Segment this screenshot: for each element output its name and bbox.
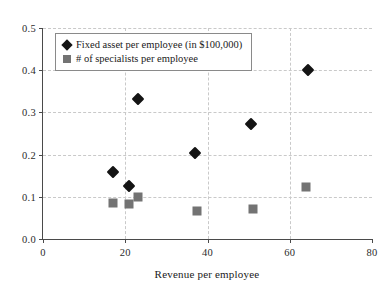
legend-label-specialists: # of specialists per employee [76, 52, 198, 66]
legend-item-specialists: # of specialists per employee [63, 52, 242, 66]
x-axis-tick-label: 40 [202, 247, 213, 258]
gridline-vertical [290, 28, 291, 239]
y-axis-tick-label: 0.1 [22, 191, 36, 202]
y-axis-tick-label: 0.4 [22, 65, 36, 76]
y-axis-tick-label: 0.3 [22, 107, 36, 118]
x-axis-tick [208, 239, 209, 243]
x-axis-tick [43, 239, 44, 243]
x-axis-tick-label: 60 [284, 247, 295, 258]
legend-label-fixed-asset: Fixed asset per employee (in $100,000) [76, 38, 242, 52]
x-axis-tick-label: 20 [120, 247, 131, 258]
data-point-fixed-asset [131, 93, 144, 106]
x-axis-tick [290, 239, 291, 243]
data-point-specialists [248, 205, 257, 214]
data-point-fixed-asset [302, 64, 315, 77]
data-point-fixed-asset [189, 147, 202, 160]
x-axis-tick [125, 239, 126, 243]
x-axis-tick-label: 80 [366, 247, 377, 258]
chart-top-margin [0, 0, 391, 10]
diamond-marker-icon [61, 39, 72, 50]
data-point-specialists [108, 198, 117, 207]
y-axis-tick [39, 155, 43, 156]
data-point-fixed-asset [107, 166, 120, 179]
data-point-specialists [302, 182, 311, 191]
y-axis-tick-label: 0.5 [22, 23, 36, 34]
data-point-specialists [193, 207, 202, 216]
x-axis-title: Revenue per employee [42, 268, 372, 280]
square-marker-icon [63, 55, 71, 63]
y-axis-tick-label: 0.0 [22, 234, 36, 245]
y-axis-tick [39, 197, 43, 198]
y-axis-tick-label: 0.2 [22, 149, 36, 160]
y-axis-tick [39, 70, 43, 71]
data-point-specialists [133, 193, 142, 202]
y-axis-tick [39, 28, 43, 29]
chart-legend: Fixed asset per employee (in $100,000) #… [55, 33, 252, 71]
y-axis-tick [39, 112, 43, 113]
legend-item-fixed-asset: Fixed asset per employee (in $100,000) [63, 38, 242, 52]
scatter-chart: 0.00.10.20.30.40.5020406080 Fixed asset … [0, 0, 391, 294]
x-axis-tick-label: 0 [40, 247, 46, 258]
data-point-fixed-asset [244, 117, 257, 130]
x-axis-tick [372, 239, 373, 243]
